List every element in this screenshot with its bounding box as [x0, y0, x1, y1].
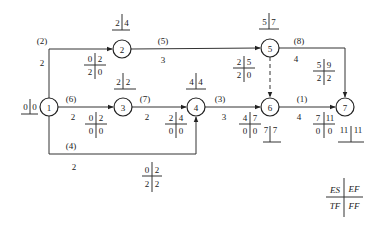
legend-es: ES: [329, 185, 340, 195]
svg-text:2: 2: [155, 179, 160, 189]
svg-text:3: 3: [121, 103, 126, 113]
network-diagram: 1 2 3 4 5 6 7 (2) 2 (5) 3 (6) 2 (7) 2 (4…: [0, 0, 384, 228]
node-2: 2: [113, 40, 131, 58]
svg-text:11: 11: [340, 125, 349, 135]
activity-times-6: 0 2 0 0: [85, 112, 107, 138]
svg-text:0: 0: [247, 70, 252, 80]
svg-text:2: 2: [98, 54, 103, 64]
svg-text:0: 0: [179, 126, 184, 136]
legend-tf: TF: [330, 201, 341, 211]
svg-text:2: 2: [115, 18, 120, 28]
activity-code-1: (1): [297, 94, 308, 104]
activity-duration-1: 4: [297, 112, 302, 122]
svg-text:0: 0: [145, 165, 150, 175]
svg-text:4: 4: [189, 77, 194, 87]
svg-text:7: 7: [273, 125, 278, 135]
node-times-7: 11 11: [338, 125, 364, 142]
activity-times-1: 7 11 0 0: [313, 112, 335, 138]
svg-text:0: 0: [98, 67, 103, 77]
activity-duration-2: 2: [40, 58, 45, 68]
arrow-activity-5: [131, 48, 260, 49]
node-6: 6: [261, 98, 279, 116]
arrow-activity-8: [279, 48, 345, 97]
node-times-4: 4 4: [186, 73, 206, 89]
svg-text:0: 0: [316, 126, 321, 136]
legend: ES EF TF FF: [326, 178, 363, 217]
svg-text:5: 5: [268, 44, 273, 54]
svg-text:4: 4: [194, 103, 199, 113]
activity-duration-4: 2: [72, 162, 77, 172]
activity-times-7: 2 4 0 0: [165, 112, 187, 138]
svg-text:2: 2: [116, 77, 121, 87]
activity-times-3: 4 7 0 0: [239, 112, 261, 138]
svg-text:5: 5: [317, 60, 322, 70]
svg-text:4: 4: [198, 77, 203, 87]
svg-text:11: 11: [354, 125, 363, 135]
svg-text:0: 0: [88, 54, 93, 64]
svg-text:11: 11: [326, 113, 335, 123]
svg-text:5: 5: [262, 17, 267, 27]
activity-times-5: 2 5 2 0: [233, 56, 255, 82]
node-times-5: 5 7: [259, 13, 279, 29]
activity-duration-8: 4: [294, 54, 299, 64]
legend-ff: FF: [348, 201, 360, 211]
svg-text:7: 7: [253, 113, 258, 123]
activity-duration-6: 2: [71, 112, 76, 122]
activity-duration-7: 2: [145, 112, 150, 122]
activity-times-2: 0 2 2 0: [84, 53, 106, 79]
svg-text:2: 2: [317, 73, 322, 83]
node-times-6: 7 7: [263, 125, 281, 142]
svg-text:2: 2: [169, 113, 174, 123]
svg-text:7: 7: [316, 113, 321, 123]
svg-text:4: 4: [124, 18, 129, 28]
svg-text:4: 4: [243, 113, 248, 123]
node-5: 5: [261, 39, 279, 57]
svg-text:0: 0: [243, 126, 248, 136]
node-3: 3: [114, 98, 132, 116]
node-4: 4: [187, 98, 205, 116]
node-times-3: 2 2: [114, 73, 136, 89]
activity-duration-5: 3: [161, 55, 166, 65]
svg-text:9: 9: [327, 60, 332, 70]
svg-text:0: 0: [32, 102, 37, 112]
svg-text:2: 2: [145, 179, 150, 189]
svg-text:5: 5: [247, 57, 252, 67]
svg-text:2: 2: [99, 113, 104, 123]
svg-text:4: 4: [179, 113, 184, 123]
svg-text:0: 0: [89, 126, 94, 136]
svg-text:7: 7: [271, 17, 276, 27]
svg-text:0: 0: [169, 126, 174, 136]
arrow-activity-2: [49, 49, 112, 98]
activity-times-8: 5 9 2 2: [313, 59, 335, 85]
node-1: 1: [40, 98, 58, 116]
svg-text:2: 2: [88, 67, 93, 77]
svg-text:2: 2: [126, 77, 131, 87]
svg-text:2: 2: [237, 70, 242, 80]
node-7: 7: [336, 98, 354, 116]
activity-code-3: (3): [215, 94, 226, 104]
activity-duration-3: 3: [222, 112, 227, 122]
svg-text:7: 7: [343, 103, 348, 113]
activity-code-7: (7): [140, 94, 151, 104]
svg-text:0: 0: [328, 126, 333, 136]
svg-text:7: 7: [264, 125, 269, 135]
activity-times-4: 0 2 2 2: [142, 162, 162, 192]
activity-code-5: (5): [158, 36, 169, 46]
svg-text:0: 0: [253, 126, 258, 136]
svg-text:2: 2: [155, 165, 160, 175]
activity-code-6: (6): [66, 94, 77, 104]
svg-text:2: 2: [327, 73, 332, 83]
activity-code-2: (2): [37, 36, 48, 46]
svg-text:1: 1: [47, 103, 52, 113]
activity-code-8: (8): [294, 36, 305, 46]
legend-ef: EF: [348, 184, 360, 194]
activity-code-4: (4): [66, 141, 77, 151]
node-times-1: 0 0: [21, 99, 38, 114]
node-times-2: 2 4: [112, 14, 130, 30]
svg-text:0: 0: [23, 102, 28, 112]
svg-text:6: 6: [268, 103, 273, 113]
svg-text:2: 2: [120, 45, 125, 55]
svg-text:0: 0: [89, 113, 94, 123]
svg-text:2: 2: [237, 57, 242, 67]
svg-text:0: 0: [99, 126, 104, 136]
